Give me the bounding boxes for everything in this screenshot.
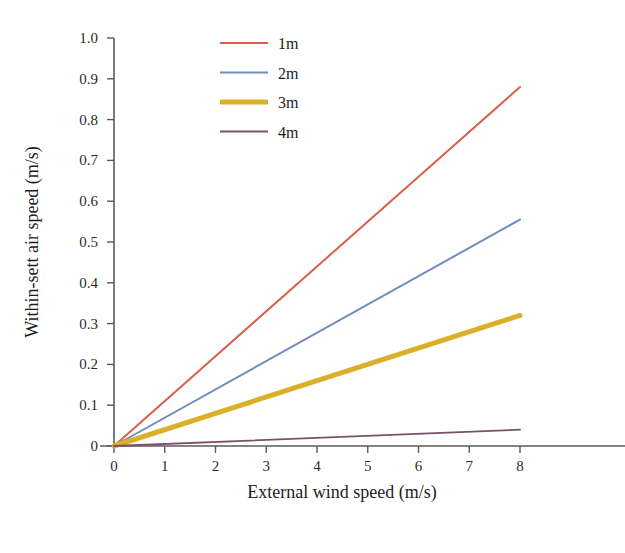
y-axis-title: Within-sett air speed (m/s) — [22, 146, 43, 338]
x-tick-label: 2 — [212, 458, 220, 474]
x-tick-label: 6 — [415, 458, 423, 474]
chart-container: 00.10.20.30.40.50.60.70.80.91.0 01234567… — [0, 0, 625, 553]
data-series-group — [114, 87, 520, 446]
x-axis-title: External wind speed (m/s) — [247, 482, 436, 503]
x-tick-label: 7 — [466, 458, 474, 474]
y-tick-label: 0.7 — [79, 152, 98, 168]
x-tick-label: 5 — [364, 458, 372, 474]
x-tick-label: 0 — [110, 458, 118, 474]
line-chart: 00.10.20.30.40.50.60.70.80.91.0 01234567… — [0, 0, 625, 553]
y-tick-label: 0.6 — [79, 193, 98, 209]
y-tick-label: 0.5 — [79, 234, 98, 250]
y-axis-tick-marks — [107, 38, 114, 446]
y-tick-label: 1.0 — [79, 30, 98, 46]
series-line-1m — [114, 87, 520, 446]
chart-legend: 1m2m3m4m — [220, 35, 299, 141]
y-tick-label: 0 — [91, 438, 99, 454]
legend-label-4m: 4m — [278, 124, 299, 141]
legend-label-1m: 1m — [278, 35, 299, 52]
y-tick-label: 0.8 — [79, 112, 98, 128]
y-tick-label: 0.2 — [79, 356, 98, 372]
y-tick-label: 0.3 — [79, 316, 98, 332]
y-tick-label: 0.1 — [79, 397, 98, 413]
x-tick-label: 1 — [161, 458, 169, 474]
x-tick-label: 3 — [263, 458, 271, 474]
x-axis-tick-labels: 012345678 — [110, 458, 524, 474]
x-tick-label: 8 — [516, 458, 524, 474]
legend-label-2m: 2m — [278, 65, 299, 82]
legend-label-3m: 3m — [278, 94, 299, 111]
y-tick-label: 0.9 — [79, 71, 98, 87]
y-axis-tick-labels: 00.10.20.30.40.50.60.70.80.91.0 — [79, 30, 98, 454]
y-tick-label: 0.4 — [79, 275, 98, 291]
series-line-4m — [114, 430, 520, 446]
series-line-3m — [114, 315, 520, 446]
x-tick-label: 4 — [313, 458, 321, 474]
x-axis-tick-marks — [114, 446, 520, 453]
